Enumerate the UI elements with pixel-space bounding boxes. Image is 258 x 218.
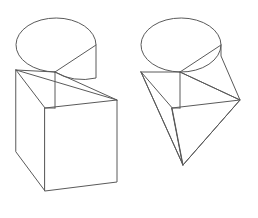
- right-figure-notched-cylinder-wedge: [141, 18, 240, 165]
- box-front-face: [45, 100, 117, 191]
- left-figure-notched-cylinder-on-box: [16, 18, 117, 191]
- box-left-face: [16, 70, 45, 191]
- geometric-solids-diagram: [0, 0, 258, 218]
- wedge-front-face: [172, 100, 240, 165]
